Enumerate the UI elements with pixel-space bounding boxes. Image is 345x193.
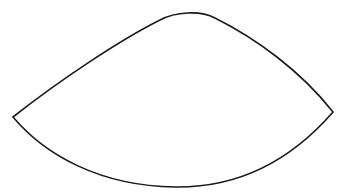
shape-svg — [0, 0, 345, 193]
curved-shape-outline — [13, 13, 333, 187]
diagram-canvas — [0, 0, 345, 193]
